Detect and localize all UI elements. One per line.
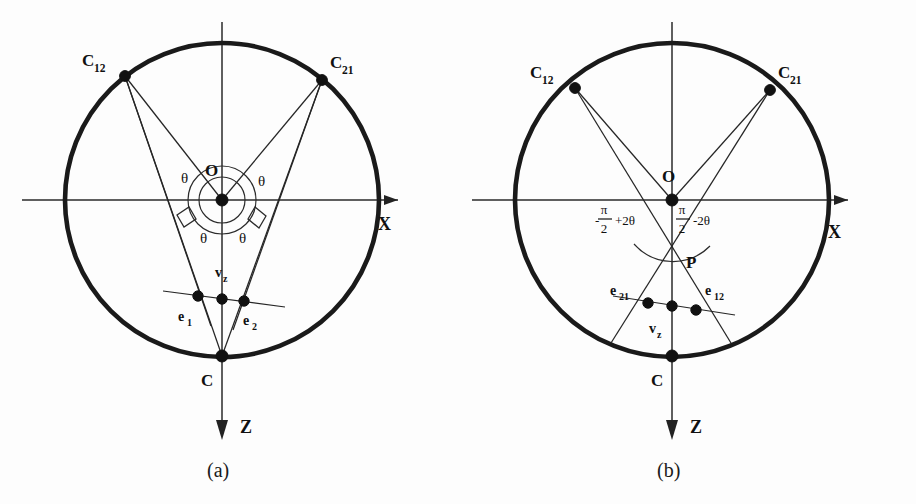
label-vz-b: v z	[649, 321, 662, 340]
label-c12-a-main: C	[82, 51, 94, 70]
theta-label-lower-right: θ	[239, 230, 246, 246]
point-e12-b	[691, 305, 701, 315]
z-axis-arrowhead-b	[666, 420, 678, 440]
label-c12-a: C 12	[82, 51, 106, 74]
z-axis-b	[666, 22, 678, 440]
label-e21-b-sub: 21	[619, 291, 629, 302]
chord-c21-inner	[233, 80, 322, 330]
point-c12-b	[570, 83, 581, 94]
z-axis-label-a: Z	[240, 417, 252, 437]
label-e1-a-sub: 1	[187, 317, 192, 328]
label-c21-a-sub: 21	[342, 64, 354, 76]
angle-right-tail: -2θ	[693, 213, 710, 228]
angle-left-sign: -	[595, 213, 599, 228]
label-o-a: O	[205, 161, 218, 180]
label-e21-b-main: e	[610, 283, 616, 298]
label-vz-b-main: v	[649, 321, 656, 336]
x-axis-label-b: X	[828, 222, 841, 242]
point-c12-a	[120, 71, 131, 82]
label-c21-b-main: C	[778, 63, 790, 82]
x-axis-a	[22, 195, 398, 205]
label-e12-b-main: e	[705, 283, 711, 298]
label-e2-a-sub: 2	[252, 321, 257, 332]
angle-right-numerator: π	[679, 202, 686, 217]
label-c12-a-sub: 12	[94, 62, 106, 74]
angle-left-numerator: π	[601, 202, 608, 217]
point-vz-b	[667, 301, 677, 311]
label-c12-b-main: C	[530, 63, 542, 82]
label-c21-b: C 21	[778, 63, 802, 86]
point-c21-b	[765, 85, 776, 96]
label-e12-b: e 12	[705, 283, 724, 302]
label-c21-b-sub: 21	[790, 74, 802, 86]
label-e2-a-main: e	[243, 313, 249, 328]
label-vz-b-sub: z	[657, 329, 662, 340]
z-axis-arrowhead	[216, 420, 228, 440]
angle-expression-right: π 2 -2θ	[676, 202, 710, 236]
x-axis-b	[472, 195, 848, 205]
label-c21-a-main: C	[330, 53, 342, 72]
label-e2-a: e 2	[243, 313, 257, 332]
point-c21-a	[317, 75, 328, 86]
theta-label-lower-left: θ	[200, 230, 207, 246]
ray-o-c12	[125, 76, 222, 200]
z-axis-label-b: Z	[690, 417, 702, 437]
panel-b: C 12 C 21 O P C e 21 v z e 12	[458, 0, 916, 504]
theta-label-upper-right: θ	[258, 173, 265, 189]
caption-b: (b)	[657, 459, 680, 482]
label-c12-b: C 12	[530, 63, 554, 86]
label-vz-a-main: v	[215, 265, 222, 280]
figure-root: C 12 C 21 O C e 1 v z e 2 θ θ θ θ	[0, 0, 916, 504]
point-c-b	[666, 350, 678, 362]
x-axis-label-a: X	[378, 214, 391, 234]
label-c-a: C	[201, 371, 213, 390]
label-e21-b: e 21	[610, 283, 629, 302]
chord-c12-inner	[125, 76, 211, 326]
label-c-b: C	[651, 371, 663, 390]
x-axis-arrowhead-b	[834, 195, 848, 205]
label-e12-b-sub: 12	[714, 291, 724, 302]
label-c21-a: C 21	[330, 53, 354, 76]
angle-left-tail: +2θ	[615, 213, 635, 228]
label-e1-a: e 1	[178, 309, 192, 328]
ray-o-c12-b	[575, 88, 672, 200]
panel-a: C 12 C 21 O C e 1 v z e 2 θ θ θ θ	[0, 0, 458, 504]
point-o-a	[216, 194, 228, 206]
x-axis-arrowhead	[384, 195, 398, 205]
label-e1-a-main: e	[178, 309, 184, 324]
angle-right-denominator: 2	[679, 221, 686, 236]
point-c-a	[216, 350, 228, 362]
point-vz-a	[217, 294, 227, 304]
z-axis-a	[216, 22, 228, 440]
angle-left-denominator: 2	[601, 221, 608, 236]
label-c12-b-sub: 12	[542, 74, 554, 86]
label-o-b: O	[662, 167, 675, 186]
label-p-b: P	[686, 253, 696, 272]
point-e1-a	[193, 291, 203, 301]
label-vz-a-sub: z	[223, 273, 228, 284]
angle-expression-left: - π 2 +2θ	[595, 202, 635, 236]
caption-a: (a)	[207, 459, 229, 482]
point-o-b	[666, 194, 678, 206]
theta-label-upper-left: θ	[181, 170, 188, 186]
point-e2-a	[239, 296, 249, 306]
ray-o-c21-b	[672, 90, 770, 200]
point-e21-b	[643, 298, 653, 308]
